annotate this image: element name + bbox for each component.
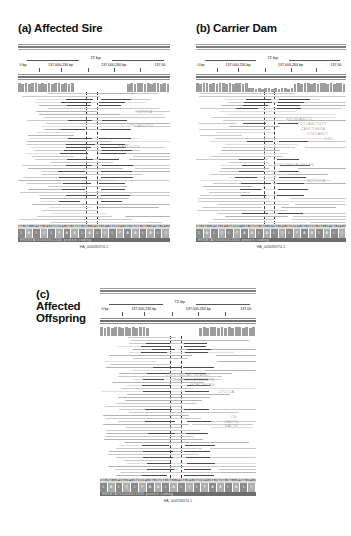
- read-bar: [277, 138, 326, 140]
- amino-acid-block: Q: [219, 229, 227, 238]
- ruler-tick: [140, 68, 141, 72]
- amino-acid-letter: A: [127, 230, 129, 237]
- read-bar: [49, 207, 92, 209]
- panel-a-title: (a) Affected Sire: [18, 22, 170, 34]
- deletion-bar-right: [185, 391, 209, 393]
- coverage-bar: [213, 327, 216, 336]
- read-bar: [293, 216, 346, 218]
- amino-acid-block: L: [194, 483, 202, 492]
- amino-acid-letter: P: [204, 484, 206, 491]
- deletion-bar-left: [60, 129, 84, 131]
- amino-acid-block: Q: [279, 229, 287, 238]
- coverage-bar: [71, 83, 74, 92]
- read-bar: [185, 466, 256, 468]
- amino-acid-letter: L: [318, 230, 320, 237]
- read-bar: [106, 418, 201, 420]
- amino-acid-letter: L: [333, 230, 335, 237]
- deletion-bar-right: [279, 141, 308, 143]
- coverage-bar: [139, 327, 142, 336]
- amino-acid-block: A: [209, 483, 217, 492]
- read-bar: [216, 132, 274, 134]
- deletion-bar-right: [186, 457, 209, 459]
- read-bar: [211, 156, 283, 158]
- deletion-bar-right: [99, 138, 131, 140]
- read-bar: [217, 361, 256, 363]
- ruler-b: 72 bp 0 bp137,000,230 bp137,000,260 bp13…: [196, 56, 346, 73]
- ruler-tick: [217, 68, 218, 72]
- read-bar: [28, 168, 122, 170]
- sequence-track-c: CTGCTGGCACTGCAGCTCCCAGCTGCTCTGCTGGCACTGC…: [100, 478, 256, 496]
- read-bar: [42, 210, 98, 212]
- amino-acid-letter: L: [196, 484, 198, 491]
- deletion-bar-left: [152, 349, 175, 351]
- deletion-bar-left: [145, 409, 172, 411]
- deletion-bar-left: [64, 150, 86, 152]
- read-bar: [295, 204, 346, 206]
- amino-acid-block: L: [226, 229, 234, 238]
- deletion-bar-right: [184, 346, 206, 348]
- coverage-bar: [144, 84, 147, 92]
- ruler-ticks-a: 0 bp137,000,230 bp137,000,260 bp137,00: [18, 64, 170, 73]
- alignment-track-c: CTGCTGGCACTGCAGCTCCCAGCTGCTCTGCTGGCACTGC…: [100, 336, 256, 478]
- deletion-bar-right: [184, 469, 211, 471]
- amino-acid-block: A: [324, 229, 332, 238]
- axis-rule: [18, 74, 170, 75]
- read-bar: [271, 201, 346, 203]
- amino-acid-letter: A: [149, 484, 151, 491]
- deletion-bar-left: [143, 451, 173, 453]
- ref-line: [100, 288, 256, 289]
- read-bar: [288, 174, 328, 176]
- amino-acid-block: L: [140, 229, 148, 238]
- amino-acid-block: P: [56, 229, 64, 238]
- read-bar: [121, 388, 203, 390]
- amino-acid-block: L: [286, 229, 294, 238]
- deletion-bar-left: [242, 165, 264, 167]
- coverage-bar: [18, 83, 21, 92]
- deletion-bar-right: [277, 159, 299, 161]
- coverage-bar: [229, 83, 232, 92]
- deletion-bar-left: [141, 346, 171, 348]
- ruler-tick: [238, 68, 239, 72]
- amino-acid-block: A: [241, 229, 249, 238]
- read-bar: [120, 472, 228, 474]
- read-bar: [223, 120, 286, 122]
- deletion-bar-right: [184, 343, 207, 345]
- deletion-bar-right: [278, 102, 303, 104]
- deletion-bar-left: [66, 165, 91, 167]
- read-bar: [42, 126, 129, 128]
- read-bar: [124, 460, 170, 462]
- amino-acid-letter: P: [236, 230, 238, 237]
- amino-acid-letter: L: [181, 484, 183, 491]
- read-bar: [208, 222, 307, 224]
- amino-acid-letter: L: [112, 230, 114, 237]
- mismatch-bases: GGC: [325, 138, 333, 141]
- amino-acid-block: P: [201, 483, 209, 492]
- ruler-tick: [172, 312, 173, 316]
- deletion-bar-left: [143, 379, 165, 381]
- amino-acid-block: L: [79, 229, 87, 238]
- read-bar: [298, 168, 346, 170]
- deletion-bar-left: [147, 463, 171, 465]
- deletion-bar-left: [62, 189, 84, 191]
- amino-acid-letter: A: [173, 484, 175, 491]
- read-bar: [197, 210, 287, 212]
- read-bar: [37, 216, 112, 218]
- read-bar: [220, 111, 295, 113]
- ruler-tick-label: 137,000,260 bp: [186, 307, 211, 311]
- amino-acid-block: L: [178, 483, 186, 492]
- deletion-bar-right: [101, 177, 132, 179]
- amino-acid-block: A: [301, 229, 309, 238]
- read-bar: [200, 135, 242, 137]
- amino-acid-block: Q: [162, 229, 170, 238]
- deletion-bar-right: [187, 463, 215, 465]
- read-bar: [229, 162, 269, 164]
- amino-acid-letter: P: [296, 230, 298, 237]
- amino-acid-letter: A: [89, 230, 91, 237]
- amino-acid-block: L: [196, 229, 204, 238]
- coverage-bar: [35, 83, 38, 92]
- panel-c-body: 72 bp 0 bp137,000,230 bp137,000,260 bp13…: [100, 288, 256, 503]
- read-bar: [36, 132, 74, 134]
- read-bar: [170, 340, 249, 342]
- read-bar: [48, 108, 159, 110]
- ruler-tick-label: 137,000,230 bp: [131, 307, 156, 311]
